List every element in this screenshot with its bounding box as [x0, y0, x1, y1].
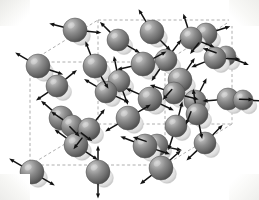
atom-sphere	[83, 54, 107, 78]
atom-sphere	[180, 27, 202, 49]
atom-sphere	[116, 106, 140, 130]
atom-sphere	[86, 160, 110, 184]
arrow-shaft	[208, 100, 217, 101]
atom-sphere	[63, 18, 87, 42]
atom-sphere	[163, 82, 185, 104]
atom-sphere	[26, 54, 50, 78]
atom-sphere	[149, 156, 173, 180]
atom-sphere	[165, 115, 187, 137]
atom-sphere	[46, 75, 68, 97]
atom-sphere	[131, 52, 155, 76]
atom-sphere	[20, 160, 44, 184]
arrow-shaft	[87, 31, 96, 32]
atom-sphere	[138, 87, 162, 111]
lattice-canvas	[0, 0, 259, 200]
crystal-lattice-figure: Crystal lattice atomic displacement patt…	[0, 0, 259, 200]
